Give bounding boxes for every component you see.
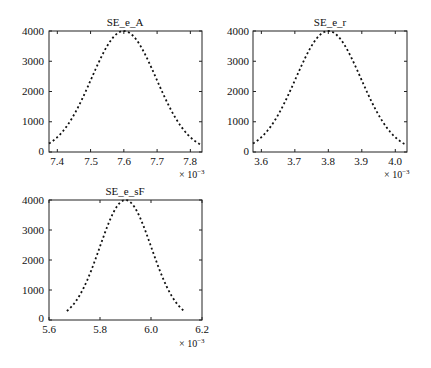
gaussian-curve (49, 31, 200, 144)
chart-axes (49, 200, 202, 320)
chart-plot-area (0, 0, 431, 368)
chart-axes (253, 31, 407, 152)
gaussian-curve (67, 200, 184, 311)
gaussian-curve (253, 31, 405, 144)
chart-axes (49, 31, 202, 152)
